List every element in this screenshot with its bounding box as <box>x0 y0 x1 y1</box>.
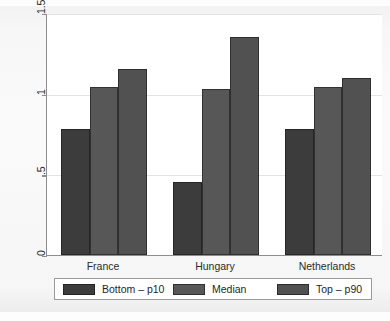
bar-series-container <box>47 14 382 255</box>
bar <box>314 87 343 255</box>
bar <box>342 78 371 255</box>
bar <box>230 37 259 255</box>
bar <box>285 129 314 255</box>
x-axis-category-label: Hungary <box>195 260 235 272</box>
legend-entry[interactable]: Median <box>173 279 246 299</box>
screenshot-root: 0.511.5 FranceHungaryNetherlands Bottom … <box>0 0 390 321</box>
chart-legend: Bottom – p10MedianTop – p90 <box>54 278 372 300</box>
legend-color-swatch <box>63 284 95 295</box>
bar <box>202 89 231 255</box>
bar <box>61 129 90 255</box>
y-axis-tick-mark <box>42 175 47 176</box>
x-axis-category-label: Netherlands <box>299 260 356 272</box>
legend-label: Median <box>212 283 246 295</box>
bar-chart-figure: 0.511.5 FranceHungaryNetherlands Bottom … <box>30 14 382 306</box>
bar <box>173 182 202 255</box>
legend-color-swatch <box>277 284 309 295</box>
y-axis-tick-mark <box>42 14 47 15</box>
legend-entry[interactable]: Top – p90 <box>277 279 362 299</box>
y-axis-tick-mark <box>42 256 47 257</box>
legend-label: Bottom – p10 <box>102 283 164 295</box>
legend-entry[interactable]: Bottom – p10 <box>63 279 164 299</box>
bar <box>90 87 119 255</box>
bar <box>118 69 147 255</box>
legend-color-swatch <box>173 284 205 295</box>
x-axis-category-label: France <box>87 260 120 272</box>
legend-label: Top – p90 <box>316 283 362 295</box>
plot-area <box>46 14 382 256</box>
